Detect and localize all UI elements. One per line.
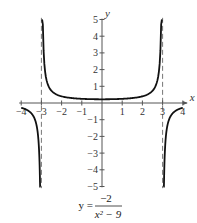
x-tick-label: 1 [120, 106, 125, 117]
y-tick-label: 3 [93, 47, 98, 58]
y-axis-label: y [104, 7, 110, 19]
caption-denominator: x² − 9 [94, 208, 122, 220]
y-tick-label: 2 [93, 64, 98, 75]
y-tick-label: −5 [87, 181, 98, 192]
y-tick-label: −4 [87, 164, 98, 175]
y-tick-label: 4 [93, 31, 98, 42]
curve-right-branch [163, 108, 182, 187]
function-graph: −4−3−2−11234−5−4−3−2−112345xyy =−2x² − 9 [0, 0, 197, 223]
y-tick-label: −1 [87, 114, 98, 125]
x-tick-label: −1 [76, 106, 87, 117]
caption-numerator: −2 [100, 192, 112, 204]
x-tick-label: −4 [16, 106, 27, 117]
x-tick-label: 2 [140, 106, 145, 117]
y-tick-label: 5 [93, 14, 98, 25]
y-tick-label: −3 [87, 148, 98, 159]
x-tick-label: −2 [56, 106, 67, 117]
x-tick-label: −3 [36, 106, 47, 117]
y-tick-label: −2 [87, 131, 98, 142]
x-tick-label: 3 [160, 106, 165, 117]
caption-lhs: y = [79, 199, 93, 211]
y-tick-label: 1 [93, 81, 98, 92]
x-axis-arrow-icon [183, 101, 188, 105]
curve-left-branch [21, 108, 40, 187]
x-axis-label: x [189, 91, 195, 103]
